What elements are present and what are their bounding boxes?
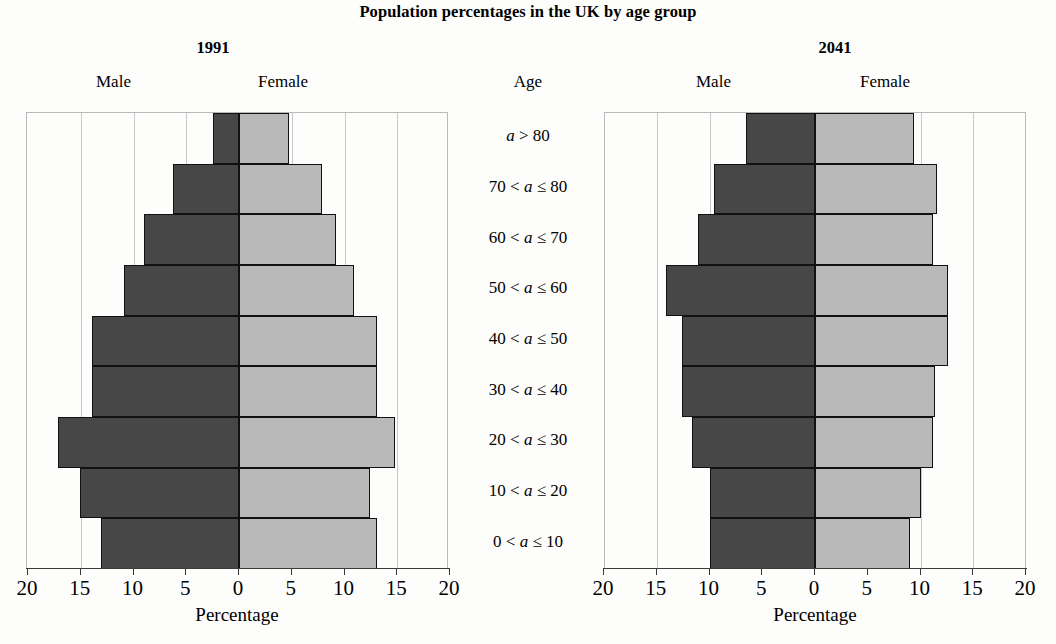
bar-row <box>605 417 1025 468</box>
x-axis-tick-label: 15 <box>636 576 676 601</box>
bar-row <box>27 164 447 215</box>
female-label-2041: Female <box>860 72 910 92</box>
x-axis-tick <box>291 568 292 575</box>
age-group-label: 0 < a ≤ 10 <box>470 532 586 552</box>
bar-female <box>815 316 948 367</box>
bar-female <box>239 113 289 164</box>
x-axis-tick-label: 0 <box>218 576 258 601</box>
age-group-label: 30 < a ≤ 40 <box>470 380 586 400</box>
bar-male <box>101 518 239 569</box>
age-column: Age a > 8070 < a ≤ 8060 < a ≤ 7050 < a ≤… <box>470 0 586 644</box>
bar-male <box>692 417 815 468</box>
age-group-label: 20 < a ≤ 30 <box>470 430 586 450</box>
x-axis-caption-1991: Percentage <box>2 604 472 626</box>
x-axis-tick <box>396 568 397 575</box>
bar-male <box>746 113 815 164</box>
age-group-label: 60 < a ≤ 70 <box>470 228 586 248</box>
x-axis-tick <box>920 568 921 575</box>
panel-title-1991: 1991 <box>0 38 448 58</box>
x-axis-tick-label: 20 <box>7 576 47 601</box>
bar-male <box>144 214 239 265</box>
bar-female <box>815 417 933 468</box>
x-axis-tick <box>185 568 186 575</box>
bar-female <box>239 366 377 417</box>
x-axis-tick <box>80 568 81 575</box>
bar-row <box>605 113 1025 164</box>
bar-female <box>815 164 937 215</box>
age-group-label: a > 80 <box>470 126 586 146</box>
x-axis-tick-label: 5 <box>271 576 311 601</box>
x-axis-tick-label: 5 <box>847 576 887 601</box>
x-axis-tick <box>133 568 134 575</box>
x-axis-tick <box>761 568 762 575</box>
bar-row <box>27 417 447 468</box>
bar-female <box>239 468 370 519</box>
bar-row <box>605 468 1025 519</box>
age-group-label: 40 < a ≤ 50 <box>470 329 586 349</box>
bar-row <box>27 214 447 265</box>
x-axis-tick <box>27 568 28 575</box>
bar-male <box>80 468 239 519</box>
x-axis-tick-label: 10 <box>324 576 364 601</box>
x-axis-tick-label: 20 <box>1005 576 1045 601</box>
bar-male <box>682 366 815 417</box>
bar-female <box>239 518 377 569</box>
x-axis-tick <box>709 568 710 575</box>
bar-female <box>239 214 336 265</box>
x-axis-tick <box>449 568 450 575</box>
bar-female <box>815 366 935 417</box>
bar-male <box>92 366 239 417</box>
x-axis-tick <box>603 568 604 575</box>
x-axis-tick-label: 15 <box>60 576 100 601</box>
bar-female <box>239 417 395 468</box>
panel-2041: 2041 Male Female Percentage 201510505101… <box>586 0 1056 644</box>
female-label-1991: Female <box>258 72 308 92</box>
x-axis-tick-label: 15 <box>952 576 992 601</box>
x-axis-tick-label: 10 <box>900 576 940 601</box>
bar-male <box>173 164 239 215</box>
bar-female <box>815 518 910 569</box>
chart-page: Population percentages in the UK by age … <box>0 0 1056 644</box>
bar-female <box>815 214 933 265</box>
x-axis-2041 <box>604 568 1027 569</box>
bar-row <box>27 265 447 316</box>
x-axis-tick-label: 10 <box>113 576 153 601</box>
male-label-1991: Male <box>96 72 131 92</box>
plot-area-2041 <box>604 112 1026 568</box>
bar-row <box>605 214 1025 265</box>
bar-female <box>815 468 921 519</box>
bar-row <box>605 316 1025 367</box>
x-axis-tick-label: 5 <box>165 576 205 601</box>
bar-row <box>27 518 447 569</box>
panel-title-2041: 2041 <box>600 38 1056 58</box>
age-column-header: Age <box>470 72 586 92</box>
plot-area-1991 <box>26 112 448 568</box>
bar-male <box>124 265 239 316</box>
x-axis-tick <box>1025 568 1026 575</box>
x-axis-tick-label: 20 <box>429 576 469 601</box>
male-label-2041: Male <box>696 72 731 92</box>
panel-1991: 1991 Male Female Percentage 201510505101… <box>0 0 470 644</box>
bar-male <box>666 265 815 316</box>
bar-row <box>27 366 447 417</box>
bar-male <box>92 316 239 367</box>
bar-female <box>239 164 322 215</box>
bar-row <box>27 316 447 367</box>
bar-row <box>27 468 447 519</box>
bar-male <box>710 518 816 569</box>
x-axis-tick-label: 15 <box>376 576 416 601</box>
x-axis-tick <box>656 568 657 575</box>
bar-row <box>605 164 1025 215</box>
bar-male <box>698 214 815 265</box>
x-axis-tick-label: 0 <box>794 576 834 601</box>
bar-male <box>710 468 816 519</box>
age-group-label: 50 < a ≤ 60 <box>470 278 586 298</box>
bar-male <box>213 113 239 164</box>
x-axis-caption-2041: Percentage <box>580 604 1050 626</box>
x-axis-tick <box>238 568 239 575</box>
x-axis-tick <box>344 568 345 575</box>
age-group-label: 10 < a ≤ 20 <box>470 481 586 501</box>
bar-female <box>815 265 948 316</box>
x-axis-tick <box>814 568 815 575</box>
bar-male <box>714 164 815 215</box>
